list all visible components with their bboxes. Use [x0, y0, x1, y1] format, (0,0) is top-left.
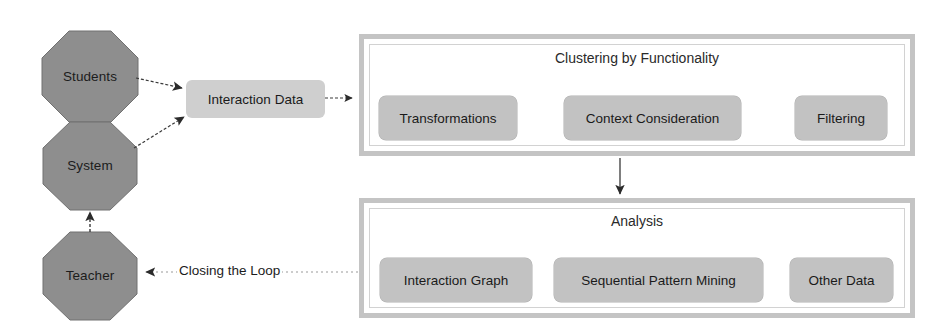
octagon-teacher[interactable]	[43, 232, 137, 320]
node-interaction-data-label: Interaction Data	[208, 92, 303, 107]
chip-interaction-graph-label: Interaction Graph	[404, 273, 508, 288]
chip-interaction-graph[interactable]: Interaction Graph	[380, 258, 532, 302]
edge-students-to-interaction-data	[136, 78, 182, 88]
chip-transformations[interactable]: Transformations	[379, 96, 517, 140]
chip-filtering-label: Filtering	[817, 111, 865, 126]
edge-system-to-interaction-data	[134, 117, 184, 148]
chip-other-data[interactable]: Other Data	[790, 258, 893, 302]
chip-context-consideration[interactable]: Context Consideration	[564, 96, 741, 140]
chip-transformations-label: Transformations	[399, 111, 496, 126]
octagon-system[interactable]	[43, 122, 137, 210]
node-interaction-data[interactable]: Interaction Data	[186, 80, 325, 118]
octagon-students[interactable]	[42, 31, 138, 122]
group-clustering-title: Clustering by Functionality	[369, 50, 905, 66]
chip-filtering[interactable]: Filtering	[795, 96, 887, 140]
edge-label-closing-the-loop: Closing the Loop	[177, 263, 282, 278]
chip-sequential-pattern-mining-label: Sequential Pattern Mining	[581, 273, 736, 288]
diagram-canvas: Students System Teacher Interaction Data…	[0, 0, 951, 332]
group-analysis-title: Analysis	[369, 213, 905, 229]
chip-sequential-pattern-mining[interactable]: Sequential Pattern Mining	[554, 258, 763, 302]
chip-other-data-label: Other Data	[808, 273, 874, 288]
chip-context-consideration-label: Context Consideration	[586, 111, 720, 126]
